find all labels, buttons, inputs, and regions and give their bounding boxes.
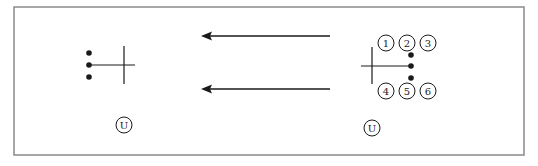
right-numbered-circle-6: 6 (420, 83, 436, 99)
diagram-canvas: U 123456U (0, 0, 538, 166)
arrows-group (201, 32, 330, 94)
circle-label: 1 (383, 38, 389, 49)
left-dot-3 (86, 74, 92, 80)
circle-label: U (120, 120, 128, 131)
right-numbered-circle-1: 1 (378, 35, 394, 51)
right-dot-3 (408, 75, 414, 81)
left-u-circle: U (116, 117, 132, 133)
circle-label: 6 (425, 86, 431, 97)
right-figure: 123456U (361, 35, 436, 136)
left-figure: U (86, 46, 135, 133)
left-dot-2 (86, 62, 92, 68)
right-dot-1 (408, 52, 414, 58)
diagram-frame (14, 7, 524, 155)
right-numbered-circle-3: 3 (420, 35, 436, 51)
right-numbered-circle-4: 4 (378, 83, 394, 99)
circle-label: 4 (383, 86, 389, 97)
right-u-circle: U (364, 120, 380, 136)
right-dot-2 (408, 63, 414, 69)
right-numbered-circle-5: 5 (399, 83, 415, 99)
right-numbered-circle-2: 2 (399, 35, 415, 51)
circle-label: 5 (404, 86, 410, 97)
circle-label: 2 (404, 38, 410, 49)
circle-label: U (368, 123, 376, 134)
circle-label: 3 (425, 38, 431, 49)
left-dot-1 (86, 50, 92, 56)
